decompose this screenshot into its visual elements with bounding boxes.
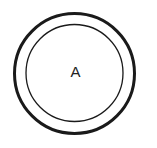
state-label: A — [60, 62, 91, 82]
state-diagram: A — [0, 0, 157, 148]
